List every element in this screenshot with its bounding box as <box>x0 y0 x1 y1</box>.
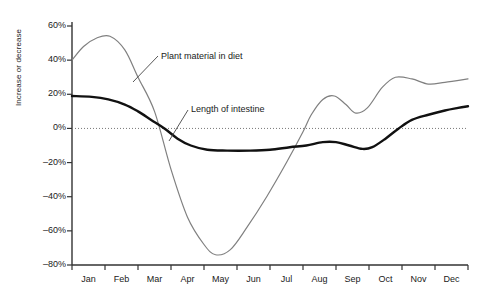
series-line-1 <box>72 96 468 151</box>
x-tick-label: Dec <box>432 274 472 284</box>
y-tick-label: 40% <box>48 54 66 64</box>
annotation-leader-line <box>169 110 188 141</box>
y-tick-label: –40% <box>43 191 66 201</box>
y-tick-label: 0% <box>53 122 66 132</box>
chart-canvas <box>0 0 485 288</box>
series-label: Plant material in diet <box>161 51 243 61</box>
chart-figure: Increase or decrease 60%40%20%0%–20%–40%… <box>0 0 485 288</box>
y-tick-label: 60% <box>48 20 66 30</box>
annotation-leader-line <box>133 56 158 82</box>
series-line-0 <box>72 35 468 255</box>
series-label: Length of intestine <box>191 104 265 114</box>
y-tick-label: –20% <box>43 157 66 167</box>
y-tick-label: –60% <box>43 225 66 235</box>
y-tick-label: –80% <box>43 259 66 269</box>
y-tick-label: 20% <box>48 88 66 98</box>
